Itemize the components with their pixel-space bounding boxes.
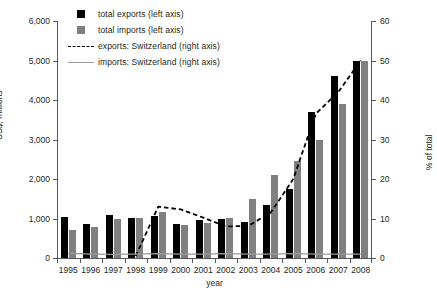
line-overlay: [57, 21, 372, 259]
x-tick-label: 2006: [306, 265, 325, 275]
legend-item-label: total exports (left axis): [98, 9, 184, 19]
legend-item-total-exports: total exports (left axis): [64, 6, 220, 22]
y-tick-label-right: 30: [380, 135, 389, 145]
x-axis-title: year: [57, 278, 372, 288]
y-tick-label-right: 10: [380, 214, 389, 224]
x-tick-label: 2003: [239, 265, 258, 275]
x-tick-label: 2005: [284, 265, 303, 275]
y-tick-label-left: 1,000: [29, 214, 50, 224]
line-imports-switzerland: [68, 253, 361, 254]
chart-container: total exports (left axis) total imports …: [0, 0, 437, 306]
y-tick-label-left: 2,000: [29, 174, 50, 184]
x-tick-label: 2001: [194, 265, 213, 275]
x-tick-label: 2002: [216, 265, 235, 275]
y-tick-label-right: 60: [380, 16, 389, 26]
square-black-icon: [64, 10, 98, 18]
x-tick-label: 1999: [149, 265, 168, 275]
y-tick-label-left: 0: [45, 253, 50, 263]
y-axis-right-title: % of total: [424, 135, 434, 170]
x-tick-label: 1997: [104, 265, 123, 275]
x-tick-label: 2004: [261, 265, 280, 275]
y-axis-left-title: US$, millions: [0, 90, 4, 140]
x-tick-label: 1996: [81, 265, 100, 275]
y-tick-label-left: 5,000: [29, 56, 50, 66]
x-tick-label: 2007: [329, 265, 348, 275]
y-tick-label-left: 4,000: [29, 95, 50, 105]
line-exports-switzerland: [136, 61, 361, 257]
y-tick-label-left: 3,000: [29, 135, 50, 145]
x-tick-label: 2000: [171, 265, 190, 275]
y-tick-label-right: 40: [380, 95, 389, 105]
y-tick-label-right: 0: [380, 253, 385, 263]
plot-area: 01,0002,0003,0004,0005,0006,000 01020304…: [57, 21, 372, 259]
x-tick-label: 1995: [59, 265, 78, 275]
x-tick-label: 1998: [126, 265, 145, 275]
y-tick-label-right: 50: [380, 56, 389, 66]
y-tick-label-right: 20: [380, 174, 389, 184]
x-tick-label: 2008: [351, 265, 370, 275]
y-tick-label-left: 6,000: [29, 16, 50, 26]
